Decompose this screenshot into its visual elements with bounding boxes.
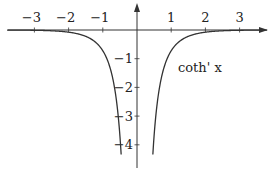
x-tick-label: 3 [235,10,243,25]
curve-branch [7,30,121,154]
axes [8,3,268,168]
y-axis-arrow-icon [134,3,140,12]
x-tick-label: 1 [167,10,175,25]
x-tick-label: −3 [22,10,41,25]
y-tick-label: −1 [114,51,133,66]
chart-container: −3−2−1123 −1−2−3−4 coth' x [0,0,275,170]
x-tick-label: −1 [90,10,109,25]
y-ticks: −1−2−3−4 [114,51,140,152]
x-ticks: −3−2−1123 [22,10,244,33]
curve-branch [153,30,267,154]
curve-label: coth' x [178,60,222,75]
coth-derivative-plot: −3−2−1123 −1−2−3−4 coth' x [0,0,275,170]
y-tick-label: −2 [114,80,133,95]
y-tick-label: −4 [114,137,133,152]
y-tick-label: −3 [114,109,133,124]
x-tick-label: 2 [201,10,209,25]
x-tick-label: −2 [56,10,75,25]
